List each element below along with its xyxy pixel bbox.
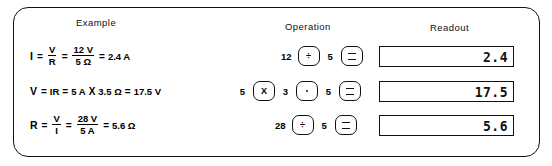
decimal-point-glyph (306, 90, 309, 93)
fraction-v-over-r: V R (48, 45, 57, 67)
readout-display-2: 17.5 (379, 81, 514, 102)
equals-sign: = (62, 51, 68, 62)
equals-sign: = (37, 51, 43, 62)
formula-voltage: V = IR = 5 A X 3.5 Ω = 17.5 V (30, 80, 161, 102)
equals-glyph (346, 88, 354, 95)
divide-key[interactable]: ÷ (298, 46, 320, 66)
formula-symbol: I (30, 50, 33, 62)
formula-symbol: R (30, 119, 38, 131)
fraction-numerator: V (52, 114, 60, 125)
equals-sign: = (42, 120, 48, 131)
fraction-denominator: R (48, 56, 57, 66)
formula-symbol: V (30, 85, 37, 97)
equals-sign: = (99, 51, 105, 62)
divide-key[interactable]: ÷ (292, 115, 314, 135)
formula-result: 17.5 V (134, 86, 161, 97)
equals-sign: = (66, 120, 72, 131)
operation-row-1: 12 ÷ 5 (276, 43, 364, 69)
fraction-numerator: 28 V (77, 114, 99, 125)
readout-value: 5.6 (483, 117, 508, 134)
fraction-denominator: 5 Ω (74, 56, 92, 66)
equals-glyph (342, 122, 350, 129)
equals-sign: = (62, 86, 68, 97)
equals-sign: = (41, 86, 47, 97)
equals-key[interactable] (341, 46, 363, 66)
fraction-28v-over-5a: 28 V 5 A (77, 114, 99, 136)
decimal-point-key[interactable] (296, 81, 318, 101)
operand: 5 (238, 86, 247, 97)
formula-result: 2.4 A (108, 51, 130, 62)
formula-operand-1: 5 A (71, 86, 85, 97)
column-header-readout: Readout (430, 22, 469, 33)
formula-operand-2: 3.5 Ω (98, 86, 121, 97)
operand: 5 (320, 120, 329, 131)
equals-sign: = (103, 120, 109, 131)
column-header-example: Example (76, 17, 116, 28)
fraction-numerator: 12 V (72, 45, 94, 56)
fraction-denominator: I (54, 125, 59, 135)
readout-value: 17.5 (475, 83, 508, 100)
equals-glyph (348, 53, 356, 60)
readout-value: 2.4 (483, 48, 508, 65)
fraction-v-over-i: V I (52, 114, 60, 136)
operation-row-3: 28 ÷ 5 (270, 112, 358, 138)
operand: 28 (275, 120, 286, 131)
fraction-numerator: V (48, 45, 56, 56)
formula-result: 5.6 Ω (112, 120, 135, 131)
formula-current: I = V R = 12 V 5 Ω = 2.4 A (30, 45, 130, 67)
ohms-law-calculator-figure: Example Operation Readout I = V R = 12 V… (0, 0, 552, 166)
multiply-key[interactable]: X (253, 81, 275, 101)
column-header-operation: Operation (285, 21, 331, 32)
equals-key[interactable] (339, 81, 361, 101)
operand: 5 (324, 86, 333, 97)
fraction-12v-over-5ohm: 12 V 5 Ω (72, 45, 94, 67)
multiplication-sign: X (89, 86, 96, 97)
readout-display-3: 5.6 (379, 115, 514, 136)
readout-display-1: 2.4 (379, 46, 514, 67)
formula-expression: IR (50, 86, 60, 97)
formula-resistance: R = V I = 28 V 5 A = 5.6 Ω (30, 114, 135, 136)
operation-row-2: 5 X 3 5 (233, 78, 362, 104)
operand: 3 (281, 86, 290, 97)
operand: 5 (326, 51, 335, 62)
fraction-denominator: 5 A (79, 125, 95, 135)
equals-key[interactable] (335, 115, 357, 135)
operand: 12 (281, 51, 292, 62)
equals-sign: = (125, 86, 131, 97)
